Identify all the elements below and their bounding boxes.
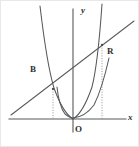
geometry-figure: y x O B R	[0, 0, 139, 147]
point-marker-r	[101, 44, 103, 46]
y-axis-label: y	[81, 6, 85, 15]
point-label-r: R	[107, 47, 114, 56]
origin-label: O	[75, 125, 82, 134]
narrow-parabola-curve	[40, 4, 102, 119]
wide-parabola-curve	[57, 58, 109, 118]
point-marker-b	[52, 88, 54, 90]
point-label-b: B	[30, 65, 36, 74]
figure-canvas	[1, 1, 139, 147]
x-axis-label: x	[128, 113, 133, 122]
